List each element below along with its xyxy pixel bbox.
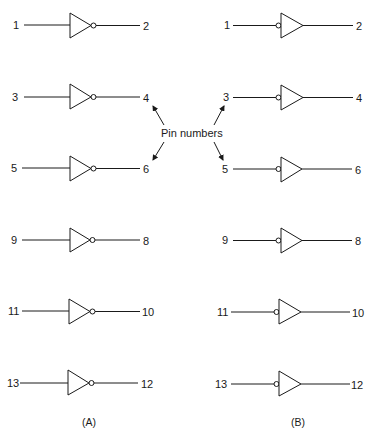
panel-b-gate-2 xyxy=(233,85,353,110)
panel-a-gate-2 xyxy=(24,84,140,109)
panel-a-pin-input-1: 1 xyxy=(13,19,19,31)
panel-b-pin-output-12: 12 xyxy=(351,379,363,391)
panel-b-gate-5 xyxy=(231,299,350,324)
panel-a-pin-output-4: 4 xyxy=(143,92,149,104)
gate-drawings xyxy=(0,0,376,437)
panel-a-pin-input-9: 9 xyxy=(11,234,17,246)
panel-b-pin-output-6: 6 xyxy=(355,164,361,176)
panel-a-pin-output-10: 10 xyxy=(142,306,154,318)
panel-b-gate-6 xyxy=(231,371,350,396)
panel-a-pin-input-3: 3 xyxy=(12,91,18,103)
panel-b-pin-input-1: 1 xyxy=(224,19,230,31)
panel-a-caption: (A) xyxy=(82,416,96,428)
panel-a-pin-input-5: 5 xyxy=(11,162,17,174)
panel-b-pin-input-13: 13 xyxy=(215,378,227,390)
panel-b-pin-input-3: 3 xyxy=(223,91,229,103)
panel-b-pin-output-2: 2 xyxy=(356,20,362,32)
panel-b-pin-input-9: 9 xyxy=(222,234,228,246)
panel-b-pin-output-8: 8 xyxy=(355,235,361,247)
panel-a-pin-input-13: 13 xyxy=(7,377,19,389)
panel-b-gate-4 xyxy=(233,228,352,253)
panel-a-gate-3 xyxy=(22,156,140,181)
panel-b-pin-input-11: 11 xyxy=(217,306,228,318)
pin-numbers-callout: Pin numbers xyxy=(161,127,223,139)
panel-a-gate-4 xyxy=(22,228,140,252)
panel-a-gate-6 xyxy=(20,370,138,395)
panel-b-gate-3 xyxy=(233,157,352,182)
panel-a-gate-5 xyxy=(22,299,140,324)
panel-a-pin-input-11: 11 xyxy=(8,305,19,317)
panel-b-pin-output-4: 4 xyxy=(356,92,362,104)
panel-a-pin-output-12: 12 xyxy=(141,378,153,390)
panel-a-gate-1 xyxy=(24,13,140,38)
panel-a-pin-output-2: 2 xyxy=(143,20,149,32)
panel-a-pin-output-6: 6 xyxy=(143,163,149,175)
panel-b-caption: (B) xyxy=(291,416,305,428)
panel-b-pin-output-10: 10 xyxy=(352,307,364,319)
panel-b-gate-1 xyxy=(233,13,353,38)
panel-a-pin-output-8: 8 xyxy=(143,235,149,247)
panel-b-pin-input-5: 5 xyxy=(222,163,228,175)
